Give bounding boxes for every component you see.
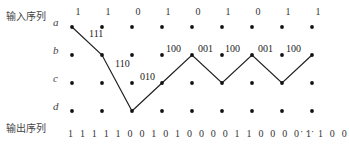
state-node <box>280 109 284 113</box>
edge-label: 100 <box>286 43 301 54</box>
edge-label: 100 <box>166 43 181 54</box>
edge-label: 110 <box>115 58 130 69</box>
state-node <box>310 81 314 85</box>
state-node <box>250 109 254 113</box>
state-node <box>130 81 134 85</box>
state-node <box>280 25 284 29</box>
state-node <box>220 53 224 57</box>
state-node <box>70 25 74 29</box>
state-node <box>190 25 194 29</box>
output-sequence-label: 输出序列 <box>6 120 46 135</box>
state-node <box>190 81 194 85</box>
state-node <box>100 53 104 57</box>
state-node <box>130 53 134 57</box>
state-node <box>160 53 164 57</box>
edge-label: 100 <box>225 43 240 54</box>
state-node <box>130 109 134 113</box>
edge-label: 010 <box>140 71 155 82</box>
state-node <box>280 53 284 57</box>
state-node <box>220 109 224 113</box>
state-node <box>160 109 164 113</box>
state-node <box>220 25 224 29</box>
state-node <box>190 109 194 113</box>
state-node <box>220 81 224 85</box>
state-node <box>310 109 314 113</box>
state-node <box>250 25 254 29</box>
state-node <box>70 81 74 85</box>
state-node <box>160 81 164 85</box>
state-node <box>310 25 314 29</box>
state-node <box>310 53 314 57</box>
state-node <box>100 109 104 113</box>
survivor-path <box>72 27 312 111</box>
edge-label: 111 <box>89 28 103 39</box>
state-node <box>70 53 74 57</box>
state-node <box>100 81 104 85</box>
state-node <box>130 25 134 29</box>
state-node <box>160 25 164 29</box>
state-node <box>190 53 194 57</box>
edge-label: 001 <box>198 43 213 54</box>
edge-label: 001 <box>258 43 273 54</box>
state-node <box>250 81 254 85</box>
state-node <box>70 109 74 113</box>
state-node <box>250 53 254 57</box>
state-node <box>280 81 284 85</box>
output-ellipsis: ··· <box>300 126 317 137</box>
